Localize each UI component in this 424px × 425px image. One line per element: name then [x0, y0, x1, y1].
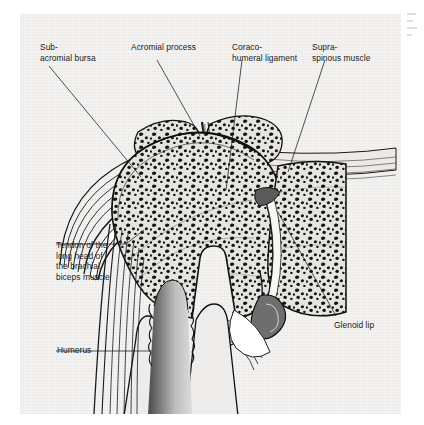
figure-panel: Sub- acromial bursa Acromial process Cor…: [20, 14, 401, 414]
glenoid-scapula: [268, 161, 358, 315]
label-subacromial-bursa: Sub- acromial bursa: [40, 42, 96, 63]
page-edge-marks: [406, 12, 422, 46]
humeral-shaft: [124, 280, 238, 414]
label-acromial-process: Acromial process: [131, 42, 196, 53]
label-coracohumeral-ligament: Coraco- humeral ligament: [232, 42, 297, 63]
label-glenoid-lip: Glenoid lip: [334, 320, 374, 331]
label-supraspinous-muscle: Supra- spinous muscle: [312, 42, 370, 63]
label-biceps-tendon: Tendon of the long head of the brachial …: [56, 240, 110, 282]
label-humerus: Humerus: [57, 345, 91, 356]
